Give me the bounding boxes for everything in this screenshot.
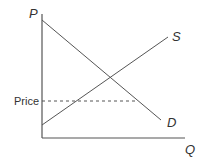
demand-label: D [167,115,176,130]
y-axis-label: P [29,6,38,21]
x-axis-label: Q [185,142,195,157]
supply-curve [42,37,168,125]
supply-label: S [172,29,181,44]
price-label: Price [14,95,39,107]
supply-demand-diagram: P Q S D Price [0,0,202,168]
demand-curve [42,20,161,120]
